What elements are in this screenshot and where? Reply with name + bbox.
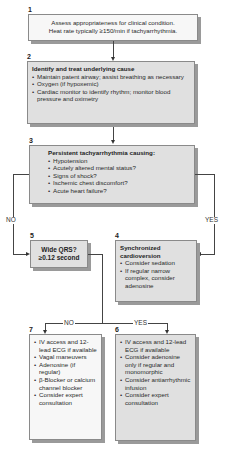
node-5-number: 5 bbox=[30, 232, 34, 239]
node-2-item: Oxygen (if hypoxemic) bbox=[32, 80, 190, 88]
node-7-item: β-Blocker or calcium channel blocker bbox=[34, 376, 97, 391]
node-2-title: Identify and treat underlying cause bbox=[32, 65, 190, 73]
edge-3-no-h2 bbox=[13, 254, 27, 255]
edge-3-yes-v bbox=[214, 174, 215, 255]
edge-5-h bbox=[88, 254, 103, 255]
edge-3-yes-h2 bbox=[200, 254, 215, 255]
edge-5-v bbox=[102, 254, 103, 323]
node-1-line-2: Heat rate typically ≥150/min if tachyarr… bbox=[33, 27, 193, 35]
node-2-item: Maintain patent airway; assist breathing… bbox=[32, 73, 190, 81]
node-6-item: Consider expert consultation bbox=[120, 391, 191, 406]
arrow-icon bbox=[111, 140, 115, 144]
edge-label-yes: YES bbox=[204, 217, 219, 224]
node-2-treat-cause: Identify and treat underlying cause Main… bbox=[27, 61, 195, 124]
edge-label-no: NO bbox=[63, 320, 75, 327]
node-3-title: Persistent tachyarrhythmia causing: bbox=[48, 149, 190, 157]
node-1-line-1: Assess appropriateness for clinical cond… bbox=[33, 19, 193, 27]
edge-3-yes-h bbox=[195, 174, 215, 175]
node-2-number: 2 bbox=[27, 53, 31, 60]
node-3-item: Acute heart failure? bbox=[48, 187, 190, 195]
node-4-synchronized-cardioversion: Synchronized cardioversion Consider seda… bbox=[115, 240, 197, 302]
node-4-item: Consider sedation bbox=[120, 259, 192, 267]
node-3-item: Signs of shock? bbox=[48, 172, 190, 180]
node-6-wide-qrs-treatment: IV access and 12-lead ECG if available C… bbox=[115, 334, 196, 441]
node-1-assess: Assess appropriateness for clinical cond… bbox=[28, 14, 198, 41]
node-7-number: 7 bbox=[29, 326, 33, 333]
node-4-number: 4 bbox=[115, 232, 119, 239]
node-5-line-2: ≥0.12 second bbox=[33, 254, 85, 262]
node-2-item: Cardiac monitor to identify rhythm; moni… bbox=[32, 88, 190, 103]
node-6-item: IV access and 12-lead ECG if available bbox=[120, 338, 191, 353]
node-6-item: Consider adenosine only if regular and m… bbox=[120, 353, 191, 376]
arrow-icon bbox=[197, 252, 201, 256]
node-4-item: If regular narrow complex, consider aden… bbox=[120, 267, 192, 290]
node-3-number: 3 bbox=[29, 137, 33, 144]
edge-2-3 bbox=[113, 127, 114, 141]
edge-3-no-h bbox=[13, 174, 29, 175]
node-7-item: Adenosine (if regular) bbox=[34, 361, 97, 376]
edge-label-yes: YES bbox=[133, 320, 148, 327]
node-7-narrow-qrs: IV access and 12-lead ECG if available V… bbox=[29, 334, 102, 440]
node-7-item: Vagal maneuvers bbox=[34, 353, 97, 361]
edge-label-no: NO bbox=[5, 217, 17, 224]
edge-1-2 bbox=[113, 41, 114, 58]
node-3-item: Ischemic chest discomfort? bbox=[48, 179, 190, 187]
node-7-item: Consider expert consultation bbox=[34, 391, 97, 406]
node-3-item: Hypotension bbox=[48, 157, 190, 165]
node-3-item: Acutely altered mental status? bbox=[48, 164, 190, 172]
node-6-number: 6 bbox=[115, 326, 119, 333]
node-7-item: IV access and 12-lead ECG if available bbox=[34, 338, 97, 353]
node-3-persistent-tachyarrhythmia: Persistent tachyarrhythmia causing: Hypo… bbox=[29, 145, 195, 204]
node-5-wide-qrs: Wide QRS? ≥0.12 second bbox=[30, 240, 88, 268]
node-4-title: Synchronized cardioversion bbox=[120, 244, 192, 259]
node-1-number: 1 bbox=[28, 6, 32, 13]
node-6-item: Consider antiarrhythmic infusion bbox=[120, 376, 191, 391]
edge-3-no-v bbox=[13, 174, 14, 255]
node-5-line-1: Wide QRS? bbox=[33, 246, 85, 254]
